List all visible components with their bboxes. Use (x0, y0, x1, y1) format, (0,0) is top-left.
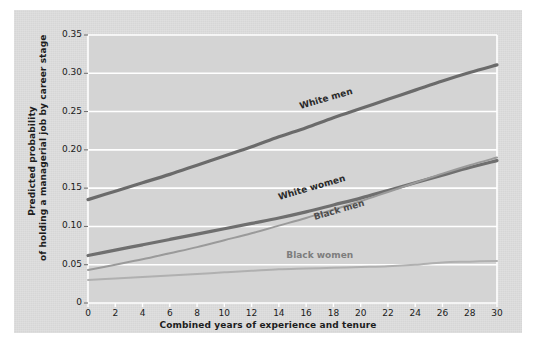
x-tick-label: 12 (238, 308, 266, 318)
x-tick-label: 18 (319, 308, 347, 318)
x-tick-label: 0 (74, 308, 102, 318)
x-tick-label: 30 (483, 308, 511, 318)
x-tick-label: 2 (101, 308, 129, 318)
y-axis-title: Predicted probability of holding a manag… (27, 61, 49, 261)
x-tick-label: 4 (129, 308, 157, 318)
chart-figure: 00.050.100.150.200.250.300.35 0246810121… (0, 0, 536, 343)
x-tick-label: 10 (210, 308, 238, 318)
x-axis-title: Combined years of experience and tenure (0, 320, 536, 331)
x-tick-label: 6 (156, 308, 184, 318)
x-tick-label: 28 (456, 308, 484, 318)
x-tick-label: 20 (347, 308, 375, 318)
x-tick-label: 22 (374, 308, 402, 318)
y-axis-title-line2: of holding a managerial job by career st… (38, 61, 49, 261)
curve-label-black-women: Black women (286, 250, 353, 260)
x-tick-label: 14 (265, 308, 293, 318)
x-tick-label: 26 (428, 308, 456, 318)
x-tick-label: 16 (292, 308, 320, 318)
plot-area-wrapper: 00.050.100.150.200.250.300.35 0246810121… (0, 0, 536, 343)
x-tick-label: 24 (401, 308, 429, 318)
line-chart-svg (0, 0, 536, 343)
x-tick-label: 8 (183, 308, 211, 318)
y-axis-title-line1: Predicted probability (27, 61, 38, 261)
y-tick-label: 0.35 (42, 29, 82, 39)
y-tick-label: 0 (42, 297, 82, 307)
